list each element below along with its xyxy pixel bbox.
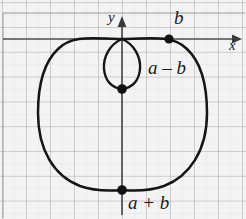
limacon-plot — [0, 0, 246, 219]
label-y-axis: y — [108, 10, 115, 25]
limacon-figure-panel: b x y a – b a + b — [0, 0, 246, 219]
label-a-plus-b: a + b — [128, 193, 169, 212]
label-b: b — [174, 8, 184, 27]
label-a-minus-b: a – b — [148, 58, 186, 77]
label-x-axis: x — [229, 38, 236, 53]
